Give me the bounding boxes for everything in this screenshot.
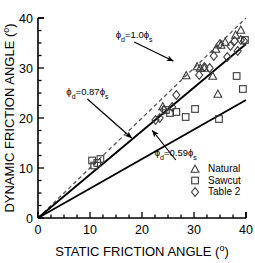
y-tick-label-2: 20 [19, 112, 33, 126]
table-2-point-8 [210, 52, 217, 61]
sawcut-point-11 [240, 86, 247, 93]
legend-item-natural[interactable]: Natural [191, 163, 240, 174]
figure-container: 010203040010203040STATIC FRICTION ANGLE … [0, 0, 255, 263]
series-table-2 [152, 36, 247, 125]
x-tick-label-4: 40 [239, 223, 253, 237]
natural-point-11 [237, 26, 245, 33]
sawcut-point-10 [233, 73, 240, 80]
y-tick-label-3: 30 [19, 62, 33, 76]
natural-point-2 [193, 63, 201, 70]
sawcut-point-7 [182, 114, 189, 121]
x-tick-label-2: 20 [135, 223, 149, 237]
y-tick-label-0: 0 [26, 212, 33, 226]
x-tick-label-1: 10 [83, 223, 97, 237]
legend-label-2: Table 2 [208, 186, 241, 197]
y-tick-label-1: 10 [19, 162, 33, 176]
legend-item-sawcut[interactable]: Sawcut [192, 175, 241, 186]
legend: NaturalSawcutTable 2 [191, 163, 241, 197]
ann-087-label: ϕd=0.87ϕs [66, 86, 109, 100]
legend-diamond-point-2 [192, 188, 199, 197]
legend-triangle-point-0 [191, 165, 199, 172]
y-tick-label-4: 40 [19, 12, 33, 26]
legend-label-1: Sawcut [208, 175, 241, 186]
table-2-point-5 [196, 71, 203, 80]
x-axis-title: STATIC FRICTION ANGLE (o) [55, 243, 229, 259]
sawcut-point-8 [192, 106, 199, 113]
natural-point-7 [214, 90, 222, 97]
x-tick-label-3: 30 [187, 223, 201, 237]
legend-square-point-1 [192, 177, 199, 184]
legend-label-0: Natural [208, 163, 240, 174]
ann-10-arrow [134, 42, 173, 61]
x-tick-label-0: 0 [35, 223, 42, 237]
y-axis-title: DYNAMIC FRICTION ANGLE (o) [1, 23, 17, 212]
table-2-point-4 [173, 91, 180, 100]
ann-10-label: ϕd=1.0ϕs [116, 29, 153, 43]
ann-087-arrow [87, 99, 131, 138]
reference-line-2 [38, 100, 246, 218]
legend-item-table-2[interactable]: Table 2 [192, 186, 241, 197]
friction-angle-scatter-plot: 010203040010203040STATIC FRICTION ANGLE … [0, 0, 255, 263]
annotations: ϕd=1.0ϕsϕd=0.87ϕsϕd=0.59ϕs [66, 29, 197, 161]
